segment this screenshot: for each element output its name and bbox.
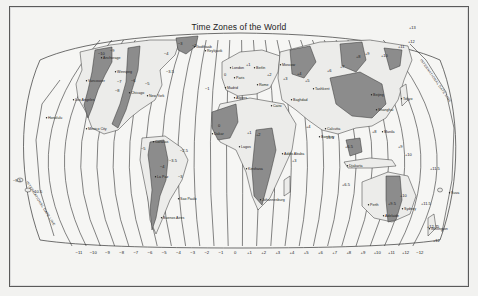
city-label: Madrid	[227, 86, 238, 90]
city-dot	[325, 128, 326, 129]
city-dot	[271, 105, 272, 106]
axis-offset-label: −8	[119, 250, 124, 255]
city-dot	[178, 198, 179, 199]
city-label: Los Angeles	[75, 98, 95, 102]
city-label: Perth	[370, 203, 379, 207]
zone-offset-label: −5	[145, 81, 150, 86]
city-label: Johannesburg	[262, 198, 285, 202]
city-dot	[205, 50, 206, 51]
city-label: Suva	[451, 191, 459, 195]
city-label: Cairo	[273, 104, 282, 108]
city-dot	[230, 67, 231, 68]
city-label: Anchorage	[103, 56, 120, 60]
zone-offset-label: −1	[205, 86, 210, 91]
city-label: Rome	[259, 83, 269, 87]
axis-offset-label: +8	[346, 250, 351, 255]
zone-offset-label: −9	[110, 48, 115, 53]
city-label: Paris	[236, 76, 244, 80]
city-label: Sao Paulo	[180, 197, 197, 201]
zone-offset-label: −5	[141, 146, 146, 151]
axis-offset-label: −4	[176, 250, 181, 255]
zone-offset-label: +10	[405, 152, 413, 157]
axis-offset-label: +11	[388, 250, 395, 255]
city-dot	[161, 217, 162, 218]
city-dot	[129, 92, 130, 93]
zone-offset-label: +8	[356, 54, 361, 59]
city-label: Chicago	[131, 91, 144, 95]
city-dot	[246, 168, 247, 169]
zone-offset-label: −9.5	[13, 178, 22, 183]
city-label: Buenos Aires	[163, 216, 184, 220]
bottom-offset-axis: −11−10−9−8−7−6−5−4−3−2−10+1+2+3+4+5+6+7+…	[76, 250, 424, 255]
city-dot	[254, 67, 255, 68]
city-dot	[115, 71, 116, 72]
axis-offset-label: +5	[304, 250, 309, 255]
axis-offset-label: −6	[148, 250, 153, 255]
zone-offset-label: +4	[306, 124, 311, 129]
zone-offset-label: +9.5	[388, 201, 397, 206]
zone-offset-label: −8	[115, 88, 120, 93]
city-dot	[257, 84, 258, 85]
city-dot	[429, 228, 430, 229]
zone-offset-label: +13	[409, 25, 417, 30]
axis-offset-label: −2	[204, 250, 209, 255]
axis-offset-label: +3	[275, 250, 280, 255]
city-dot	[234, 97, 235, 98]
axis-offset-label: −11	[76, 250, 83, 255]
zone-offset-label: +9	[365, 51, 370, 56]
city-label: Shanghai	[378, 108, 393, 112]
city-dot	[73, 99, 74, 100]
city-label: Berlin	[256, 66, 265, 70]
axis-offset-label: +10	[374, 250, 382, 255]
city-label: Sydney	[404, 207, 416, 211]
zone-offset-label: +2	[256, 132, 261, 137]
zone-offset-label: +8	[372, 129, 377, 134]
zone-offset-label: +11.5	[421, 201, 432, 206]
city-dot	[368, 204, 369, 205]
city-label: Baghdad	[293, 98, 307, 102]
axis-offset-label: +12	[402, 250, 410, 255]
zone-offset-label: +11.5	[430, 166, 441, 171]
island-fiji	[438, 188, 443, 192]
city-label: Addis Ababa	[284, 152, 304, 156]
city-label: London	[232, 66, 244, 70]
zone-offset-label: +9	[398, 144, 403, 149]
zone-offset-label: −10.5	[32, 189, 43, 194]
axis-offset-label: −3	[190, 250, 195, 255]
city-dot	[280, 64, 281, 65]
city-dot	[347, 165, 348, 166]
city-label: Bombay	[321, 135, 334, 139]
city-dot	[46, 117, 47, 118]
city-dot	[260, 199, 261, 200]
city-label: Kinshasa	[248, 167, 263, 171]
city-dot	[282, 153, 283, 154]
zone-offset-label: +2	[267, 72, 272, 77]
axis-offset-label: +6	[318, 250, 323, 255]
axis-offset-label: 0	[234, 250, 237, 255]
city-label: Reykjavik	[207, 49, 223, 53]
city-label: Vancouver	[88, 79, 106, 83]
zone-offset-label: −3.5	[166, 69, 175, 74]
city-dot	[153, 141, 154, 142]
city-label: La Paz	[157, 175, 168, 179]
zone-offset-label: −6	[131, 78, 136, 83]
city-dot	[225, 87, 226, 88]
zone-offset-label: +12	[433, 238, 441, 243]
zone-offset-label: +10	[400, 193, 408, 198]
city-label: Wellington	[431, 227, 448, 231]
city-label: Calcutta	[327, 127, 340, 131]
city-dot	[449, 192, 450, 193]
axis-offset-label: +1	[247, 250, 252, 255]
city-label: Algiers	[236, 96, 247, 100]
zone-offset-label: +1	[247, 130, 252, 135]
city-dot	[402, 208, 403, 209]
zone-offset-label: +5	[305, 78, 310, 83]
axis-offset-label: −1	[219, 250, 224, 255]
city-dot	[212, 133, 213, 134]
city-dot	[401, 98, 402, 99]
zone-offset-label: −4	[164, 51, 169, 56]
city-dot	[101, 57, 102, 58]
city-dot	[382, 131, 383, 132]
city-dot	[194, 46, 195, 47]
zone-offset-label: +6	[327, 68, 332, 73]
